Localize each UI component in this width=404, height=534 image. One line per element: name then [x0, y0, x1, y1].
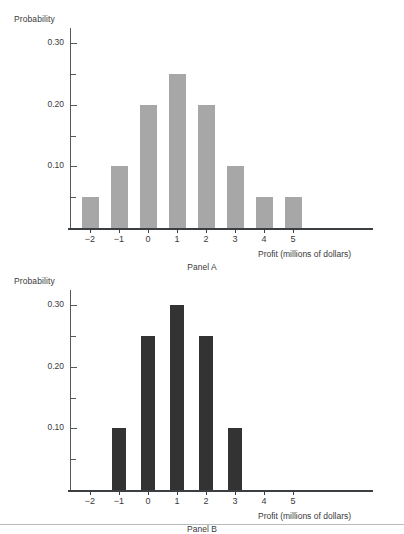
y-tick-minor: [71, 336, 76, 337]
y-tick-major: [71, 166, 77, 167]
panel-b-x-tick-label: 4: [252, 496, 276, 506]
y-tick-major: [71, 428, 77, 429]
bar: [256, 197, 273, 228]
panel-b-x-axis-line: [68, 490, 373, 492]
y-tick-minor: [71, 197, 76, 198]
panel-a: Probability −2 −1 0 1 2 3 4 5 Profit (mi…: [0, 6, 404, 274]
panel-b-x-axis-title: Profit (millions of dollars): [258, 511, 351, 521]
x-tick: [235, 228, 236, 233]
panel-b-x-tick-label: 5: [281, 496, 305, 506]
bar: [169, 74, 186, 228]
x-tick: [293, 228, 294, 233]
x-tick: [90, 228, 91, 233]
bottom-divider: [0, 524, 404, 525]
y-tick-minor: [71, 459, 76, 460]
x-tick: [119, 228, 120, 233]
y-tick-label: 0.10: [30, 160, 64, 170]
bar: [141, 336, 155, 490]
y-tick-minor: [71, 74, 76, 75]
bar: [285, 197, 302, 228]
y-tick-label: 0.30: [30, 299, 64, 309]
bar: [82, 197, 99, 228]
bar: [140, 105, 157, 228]
panel-a-plot-area: Probability −2 −1 0 1 2 3 4 5 Profit (mi…: [0, 6, 404, 274]
panel-a-x-tick-label: −2: [78, 234, 102, 244]
x-tick: [264, 490, 265, 495]
x-tick: [148, 490, 149, 495]
bar: [170, 305, 184, 490]
y-tick-label: 0.20: [30, 99, 64, 109]
panel-a-x-tick-label: 5: [281, 234, 305, 244]
panel-b-x-tick-label: 1: [165, 496, 189, 506]
bar: [228, 428, 242, 490]
panel-b-x-tick-label: 2: [194, 496, 218, 506]
x-tick: [90, 490, 91, 495]
y-tick-minor: [71, 136, 76, 137]
y-tick-major: [71, 105, 77, 106]
x-tick: [235, 490, 236, 495]
x-tick: [148, 228, 149, 233]
panel-b-x-tick-label: 0: [136, 496, 160, 506]
x-tick: [177, 228, 178, 233]
panel-a-bars: [70, 28, 375, 228]
panel-b-x-tick-label: 3: [223, 496, 247, 506]
panel-b-y-axis-title: Probability: [14, 276, 55, 286]
x-tick: [206, 228, 207, 233]
x-tick: [206, 490, 207, 495]
panel-a-x-tick-label: 2: [194, 234, 218, 244]
bar: [227, 166, 244, 228]
x-tick: [119, 490, 120, 495]
x-tick: [177, 490, 178, 495]
panel-a-x-tick-label: 3: [223, 234, 247, 244]
panel-b-bars: [70, 290, 375, 490]
bar: [112, 428, 126, 490]
panel-a-x-tick-label: 4: [252, 234, 276, 244]
panel-a-y-axis-title: Probability: [14, 14, 55, 24]
bar: [199, 336, 213, 490]
panel-a-x-tick-label: −1: [107, 234, 131, 244]
panel-b-caption: Panel B: [0, 524, 404, 534]
y-tick-minor: [71, 398, 76, 399]
bar: [198, 105, 215, 228]
x-tick: [264, 228, 265, 233]
y-tick-major: [71, 43, 77, 44]
panel-b-x-tick-label: −1: [107, 496, 131, 506]
panel-a-x-axis-line: [68, 228, 373, 230]
panel-b-x-tick-label: −2: [78, 496, 102, 506]
y-tick-label: 0.10: [30, 422, 64, 432]
y-tick-major: [71, 367, 77, 368]
y-tick-label: 0.20: [30, 361, 64, 371]
panel-b: Probability −2 −1 0 1 2 3 4 5 Profit (mi…: [0, 268, 404, 526]
panel-a-x-tick-label: 0: [136, 234, 160, 244]
panel-a-x-tick-label: 1: [165, 234, 189, 244]
y-tick-major: [71, 305, 77, 306]
panel-a-x-axis-title: Profit (millions of dollars): [258, 249, 351, 259]
bar: [111, 166, 128, 228]
x-tick: [293, 490, 294, 495]
panel-b-plot-area: Probability −2 −1 0 1 2 3 4 5 Profit (mi…: [0, 268, 404, 526]
y-tick-label: 0.30: [30, 37, 64, 47]
